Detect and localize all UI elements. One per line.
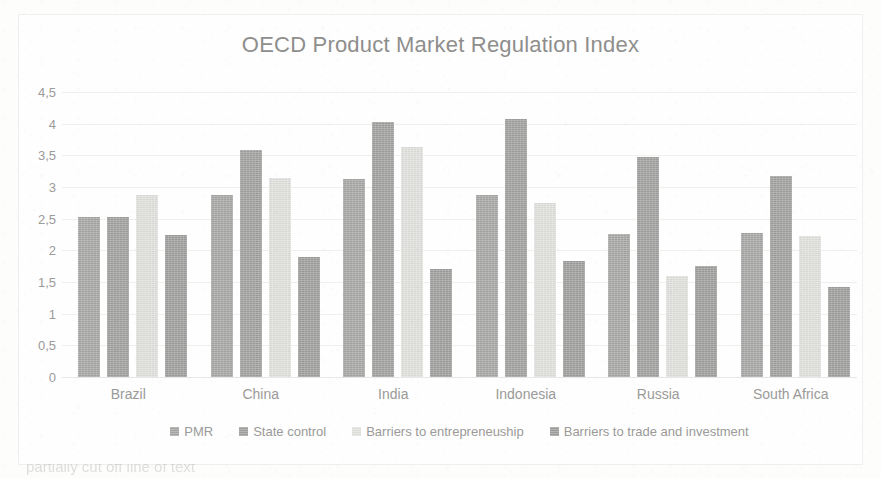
legend-label: Barriers to entrepreneuship — [366, 424, 524, 439]
bar — [695, 266, 717, 377]
legend-swatch-icon — [239, 427, 248, 436]
y-axis-tick-label: 3,5 — [38, 149, 56, 162]
bar-group — [62, 92, 195, 377]
cut-off-caption-text: partially cut off line of text — [26, 464, 456, 478]
bar-group — [725, 92, 858, 377]
bar — [343, 179, 365, 377]
y-axis-tick-label: 2,5 — [38, 212, 56, 225]
y-axis-tick-label: 4,5 — [38, 86, 56, 99]
bar — [269, 178, 291, 378]
bar — [770, 176, 792, 377]
legend-item[interactable]: State control — [239, 424, 326, 439]
bar — [505, 119, 527, 377]
bar — [534, 203, 556, 377]
legend-label: State control — [253, 424, 326, 439]
x-axis-category-label: China — [195, 386, 328, 402]
legend-swatch-icon — [550, 427, 559, 436]
x-axis-category-label: India — [327, 386, 460, 402]
bar — [372, 122, 394, 377]
bar — [430, 269, 452, 377]
bar-group — [592, 92, 725, 377]
bar — [211, 195, 233, 377]
y-axis-tick-label: 3 — [49, 181, 56, 194]
x-axis-category-label: Russia — [592, 386, 725, 402]
bar-groups — [62, 92, 857, 377]
legend-swatch-icon — [352, 427, 361, 436]
x-axis-category-labels: BrazilChinaIndiaIndonesiaRussiaSouth Afr… — [62, 386, 857, 402]
x-axis-category-label: South Africa — [725, 386, 858, 402]
legend-swatch-icon — [170, 427, 179, 436]
bar-group — [327, 92, 460, 377]
y-axis-tick-label: 1,5 — [38, 276, 56, 289]
chart-title: OECD Product Market Regulation Index — [0, 32, 881, 58]
bar — [666, 276, 688, 377]
y-axis-tick-labels: 4,543,532,521,510,50 — [18, 92, 56, 377]
legend-item[interactable]: PMR — [170, 424, 213, 439]
bar — [240, 150, 262, 377]
bar — [298, 257, 320, 377]
bar — [637, 157, 659, 377]
cut-off-caption-label: partially cut off line of text — [26, 464, 456, 474]
bar — [476, 195, 498, 377]
y-axis-tick-label: 0 — [49, 371, 56, 384]
bar — [608, 234, 630, 377]
y-axis-tick-label: 0,5 — [38, 339, 56, 352]
x-axis-line — [62, 377, 857, 378]
x-axis-category-label: Brazil — [62, 386, 195, 402]
bar-group — [460, 92, 593, 377]
legend-label: PMR — [184, 424, 213, 439]
chart-legend: PMRState controlBarriers to entrepreneus… — [62, 424, 857, 439]
bar — [828, 287, 850, 377]
legend-label: Barriers to trade and investment — [564, 424, 749, 439]
bar — [799, 236, 821, 377]
legend-item[interactable]: Barriers to entrepreneuship — [352, 424, 524, 439]
bar — [563, 261, 585, 377]
bar-group — [195, 92, 328, 377]
bar — [107, 217, 129, 377]
legend-item[interactable]: Barriers to trade and investment — [550, 424, 749, 439]
y-axis-tick-label: 4 — [49, 117, 56, 130]
y-axis-tick-label: 1 — [49, 307, 56, 320]
x-axis-category-label: Indonesia — [460, 386, 593, 402]
y-axis-tick-label: 2 — [49, 244, 56, 257]
bar — [401, 147, 423, 377]
bar — [741, 233, 763, 377]
bar — [78, 217, 100, 377]
bar — [136, 195, 158, 377]
bar — [165, 235, 187, 377]
